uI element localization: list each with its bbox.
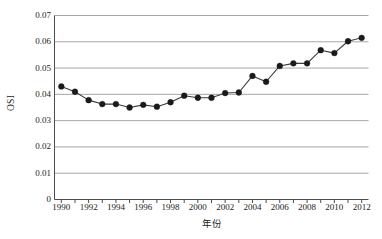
chart-container: OSI 00.010.020.030.040.050.060.07 199019…	[0, 0, 382, 239]
x-axis-tick-labels: 1990199219941996199820002002200420062008…	[0, 0, 382, 239]
x-axis-title: 年份	[55, 216, 368, 230]
x-axis-tick-label: 2012	[345, 202, 379, 212]
